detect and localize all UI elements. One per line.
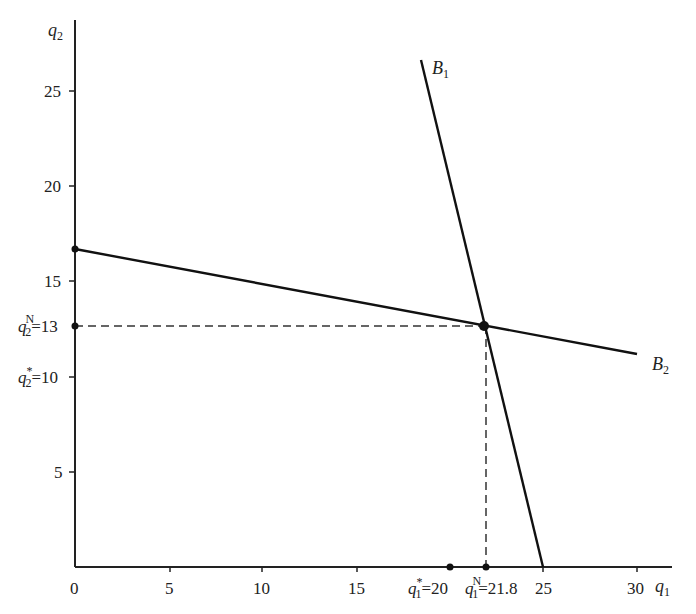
x-tick-30: 30 <box>627 579 644 598</box>
y-axis-label: q2 <box>48 20 63 43</box>
x-tick-5: 5 <box>165 579 174 598</box>
y-tick-5: 5 <box>54 463 63 482</box>
b2-line <box>75 249 637 354</box>
y-tick-20: 20 <box>44 177 61 196</box>
best-response-chart: q2 q1 B1 B2 25 20 15 5 qN2=13 q*2=10 0 5… <box>0 0 696 614</box>
y-tick-25: 25 <box>44 82 61 101</box>
q2-nash-point <box>72 323 79 330</box>
q1-nash-point <box>483 564 490 571</box>
x-tick-0: 0 <box>70 579 79 598</box>
y-tick-q2-star: q*2=10 <box>18 364 58 390</box>
x-tick-15: 15 <box>348 579 365 598</box>
q1-star-point <box>447 564 454 571</box>
x-tick-10: 10 <box>253 579 270 598</box>
y-tick-15: 15 <box>44 272 61 291</box>
x-tick-q1-nash: qN1=21.8 <box>465 574 518 601</box>
y-tick-q2-nash: qN2=13 <box>18 312 58 339</box>
b2-label: B2 <box>652 354 669 377</box>
x-tick-q1-star: q*1=20 <box>408 575 448 601</box>
b2-intercept-point <box>72 246 79 253</box>
b1-label: B1 <box>432 58 449 81</box>
x-axis-label: q1 <box>655 576 670 599</box>
b1-line <box>421 60 543 567</box>
nash-equilibrium-point <box>479 321 489 331</box>
x-tick-25: 25 <box>535 579 552 598</box>
